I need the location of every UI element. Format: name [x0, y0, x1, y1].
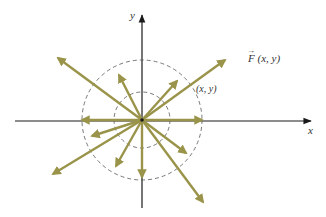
origin-point	[140, 118, 144, 122]
vector-lower-right-long	[142, 120, 203, 202]
y-axis-label: y	[129, 9, 135, 21]
field-label: F (x, y)	[247, 52, 280, 65]
x-axis-label: x	[307, 124, 313, 136]
vector-field-diagram: y x → F (x, y) (x, y)	[0, 0, 326, 217]
vector-upper-left-short	[119, 75, 142, 120]
vector-upper-right-short	[142, 81, 177, 120]
point-label: (x, y)	[196, 83, 217, 95]
field-vectors	[53, 58, 225, 202]
vector-upper-left-long	[58, 58, 142, 120]
vector-lower-left-long	[53, 120, 142, 174]
axes	[15, 15, 311, 208]
